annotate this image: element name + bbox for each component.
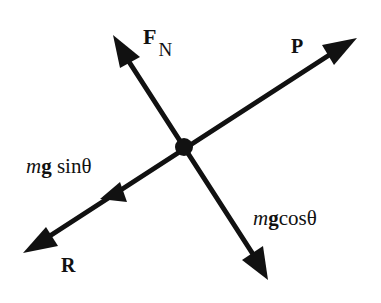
weight-parallel-label-trig: sinθ <box>52 154 92 178</box>
normal-force-label-subscript: N <box>158 39 172 60</box>
free-body-diagram: FN P R mg sinθ mgcosθ <box>0 0 381 303</box>
weight-perpendicular-arrowhead-icon <box>242 246 268 280</box>
weight-perpendicular-label-trig: cosθ <box>279 206 317 230</box>
normal-force-label: FN <box>143 24 172 60</box>
normal-force-arrowhead-icon <box>113 35 140 68</box>
resistance-force-arrowhead-icon <box>23 227 58 253</box>
weight-parallel-label: mg sinθ <box>26 154 92 178</box>
normal-axis-line <box>124 54 258 262</box>
applied-force-arrowhead-icon <box>322 38 357 65</box>
weight-perpendicular-label: mgcosθ <box>253 206 317 230</box>
resistance-force-label: R <box>61 254 76 276</box>
weight-parallel-label-m: m <box>26 154 41 178</box>
applied-force-label: P <box>291 35 303 57</box>
center-point <box>175 138 193 156</box>
weight-perpendicular-label-g: g <box>268 206 279 230</box>
weight-perpendicular-label-m: m <box>253 206 268 230</box>
normal-force-label-main: F <box>143 24 156 49</box>
weight-parallel-arrowhead-icon <box>100 182 127 202</box>
weight-parallel-label-g: g <box>41 154 52 178</box>
